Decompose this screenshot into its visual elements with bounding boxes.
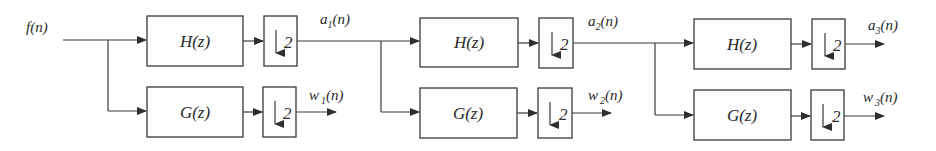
downsample-factor: 2 <box>559 105 568 124</box>
input-label: f(n) <box>26 19 48 36</box>
approx-output-label-3: a3(n) <box>868 17 898 36</box>
highpass-filter-label-3: G(z) <box>727 106 758 125</box>
stage-1: H(z) G(z) 2 2 a1(n) w1(n) <box>108 11 381 137</box>
downsample-factor: 2 <box>283 104 292 123</box>
filter-bank-diagram: f(n) H(z) G(z) 2 2 a1(n) w1(n) H(z) G(z) <box>0 0 936 151</box>
downsample-factor: 2 <box>560 35 569 54</box>
downsample-factor: 2 <box>832 107 841 126</box>
lowpass-filter-label-3: H(z) <box>726 35 758 54</box>
stage-3: H(z) G(z) 2 2 a3(n) w3(n) <box>655 17 898 140</box>
detail-output-label-3: w3(n) <box>863 89 898 108</box>
approx-output-label-2: a2(n) <box>588 13 618 32</box>
downsample-factor: 2 <box>284 33 293 52</box>
highpass-filter-label-2: G(z) <box>453 104 484 123</box>
lowpass-filter-label-1: H(z) <box>179 32 211 51</box>
detail-output-label-2: w2(n) <box>588 87 623 106</box>
highpass-filter-label-1: G(z) <box>180 103 211 122</box>
detail-output-label-1: w1(n) <box>309 87 344 106</box>
lowpass-filter-label-2: H(z) <box>453 33 485 52</box>
approx-output-label-1: a1(n) <box>320 11 350 30</box>
stage-2: H(z) G(z) 2 2 a2(n) w2(n) <box>381 13 655 138</box>
downsample-factor: 2 <box>833 36 842 55</box>
